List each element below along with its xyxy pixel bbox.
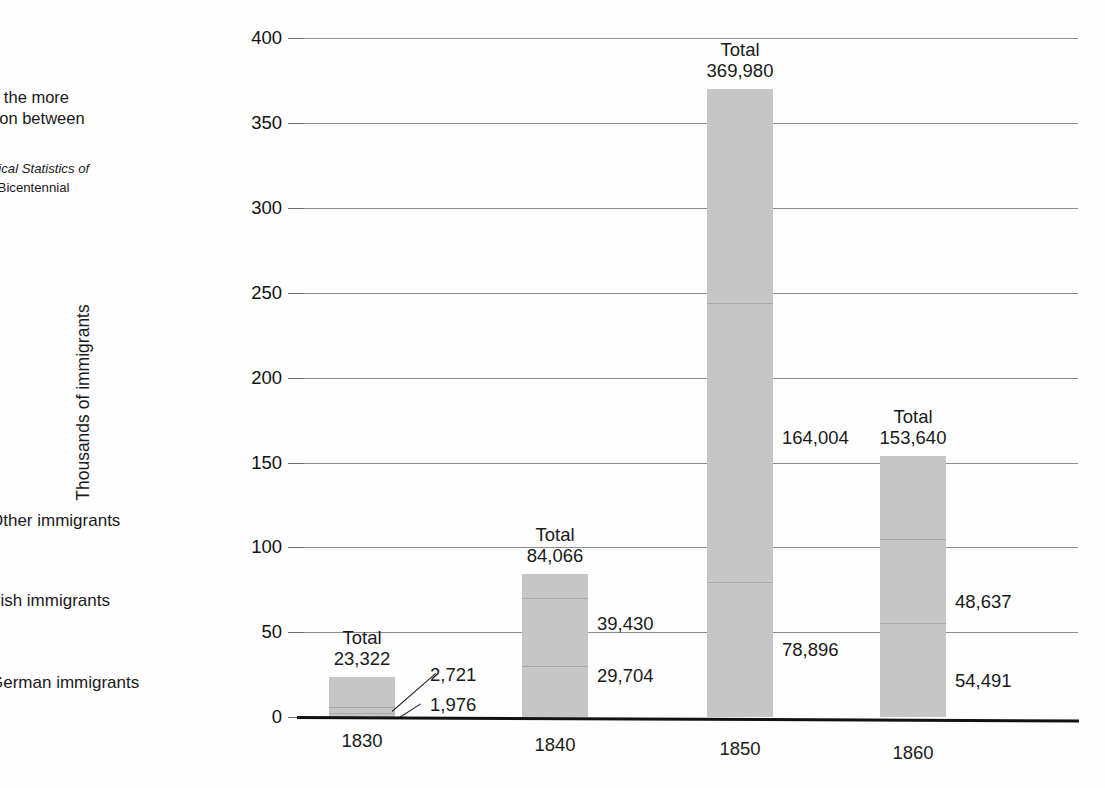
y-tick-mark-250 — [288, 293, 304, 294]
bar-1830-irish-value: 2,721 — [430, 664, 476, 686]
bar-1850-segment-german — [707, 583, 773, 717]
bar-1850-total-label: Total 369,980 — [680, 39, 800, 81]
bar-1840-total-word: Total — [495, 524, 615, 545]
bar-1860-segment-german — [880, 624, 946, 717]
bar-1850-total-value: 369,980 — [680, 60, 800, 81]
gridline-350 — [300, 123, 1078, 124]
bar-1840-segment-other — [522, 574, 588, 598]
bar-1840-segment-german — [522, 667, 588, 717]
gridline-250 — [300, 293, 1078, 294]
bar-1830-total-value: 23,322 — [302, 648, 422, 669]
bar-1840-irish-value: 39,430 — [597, 613, 654, 635]
gridline-150 — [300, 463, 1078, 464]
gridline-200 — [300, 378, 1078, 379]
y-axis-title: Thousands of immigrants — [73, 273, 94, 533]
y-tick-label-400: 400 — [222, 27, 282, 49]
bar-1860[interactable] — [880, 456, 946, 717]
y-tick-label-250: 250 — [222, 282, 282, 304]
bar-1850-divider-german-irish — [707, 582, 773, 583]
bar-1850-german-value: 78,896 — [782, 639, 839, 661]
bar-1840-divider-irish-other — [522, 598, 588, 599]
bar-1830-german-value: 1,976 — [430, 694, 476, 716]
bar-1840-segment-irish — [522, 599, 588, 666]
x-tick-label-1840: 1840 — [495, 734, 615, 756]
bar-1850-segment-irish — [707, 304, 773, 582]
y-tick-label-50: 50 — [222, 621, 282, 643]
bar-1860-divider-german-irish — [880, 623, 946, 624]
bar-1860-total-label: Total 153,640 — [853, 406, 973, 448]
bar-1830-total-label: Total 23,322 — [302, 627, 422, 669]
bar-1850-segment-other — [707, 89, 773, 303]
bar-1840[interactable] — [522, 574, 588, 717]
y-tick-mark-300 — [288, 208, 304, 209]
bar-1860-german-value: 54,491 — [955, 670, 1012, 692]
figure-page: l Total –1860 rants led the more mmigrat… — [0, 0, 1105, 788]
bar-1850-divider-irish-other — [707, 303, 773, 304]
x-tick-label-1860: 1860 — [853, 742, 973, 764]
y-tick-mark-400 — [288, 38, 304, 39]
bar-1860-divider-irish-other — [880, 539, 946, 540]
bar-1830-segment-irish — [329, 708, 395, 713]
y-tick-mark-350 — [288, 123, 304, 124]
gridline-300 — [300, 208, 1078, 209]
bar-1850-irish-value: 164,004 — [782, 427, 849, 449]
x-tick-label-1850: 1850 — [680, 738, 800, 760]
y-tick-label-150: 150 — [222, 452, 282, 474]
bar-1840-german-value: 29,704 — [597, 665, 654, 687]
bar-1860-irish-value: 48,637 — [955, 591, 1012, 613]
y-tick-label-300: 300 — [222, 197, 282, 219]
y-tick-label-200: 200 — [222, 367, 282, 389]
bar-1840-total-label: Total 84,066 — [495, 524, 615, 566]
bar-1830[interactable] — [329, 677, 395, 717]
x-tick-label-1830: 1830 — [302, 730, 422, 752]
bar-1830-divider-german-irish — [329, 713, 395, 714]
bar-1860-segment-irish — [880, 540, 946, 623]
bar-1850-total-word: Total — [680, 39, 800, 60]
x-axis-line — [297, 716, 1079, 723]
bar-1850[interactable] — [707, 89, 773, 717]
bar-1860-total-value: 153,640 — [853, 427, 973, 448]
bar-1830-segment-other — [329, 677, 395, 707]
y-tick-label-100: 100 — [222, 536, 282, 558]
y-tick-mark-150 — [288, 463, 304, 464]
y-tick-label-350: 350 — [222, 112, 282, 134]
bar-1830-divider-irish-other — [329, 707, 395, 708]
bar-1840-total-value: 84,066 — [495, 545, 615, 566]
y-tick-label-0: 0 — [222, 706, 282, 728]
bar-chart-plot-area: 400 350 300 250 200 150 100 50 0 Thousan… — [0, 0, 1105, 788]
y-tick-mark-100 — [288, 547, 304, 548]
bar-1860-total-word: Total — [853, 406, 973, 427]
bar-1860-segment-other — [880, 456, 946, 539]
bar-1840-divider-german-irish — [522, 666, 588, 667]
y-tick-mark-200 — [288, 378, 304, 379]
gridline-100 — [300, 547, 1078, 548]
bar-1830-total-word: Total — [302, 627, 422, 648]
